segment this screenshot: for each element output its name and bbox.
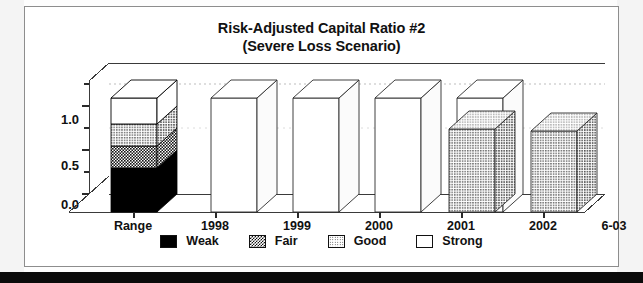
legend-item-good[interactable]: Good: [328, 234, 387, 248]
bar-group-range[interactable]: [111, 80, 177, 212]
bar-side-1999: [339, 80, 359, 212]
legend-swatch-fair-icon: [249, 235, 266, 248]
scanned-page: Risk-Adjusted Capital Ratio #2 (Severe L…: [0, 0, 643, 283]
bar-front-2000[interactable]: [375, 98, 421, 212]
page-bottom-rule: [0, 272, 643, 283]
legend-swatch-good-icon: [328, 235, 345, 248]
chart-frame: Risk-Adjusted Capital Ratio #2 (Severe L…: [24, 6, 619, 267]
legend-item-strong[interactable]: Strong: [416, 234, 482, 248]
legend-swatch-strong-icon: [416, 235, 433, 248]
bar-segment-range-good[interactable]: [111, 124, 157, 146]
bar-front-2002[interactable]: [449, 129, 495, 212]
bar-group-2002[interactable]: [449, 111, 515, 212]
y-axis-ticks: [82, 84, 89, 194]
bar-front-1998[interactable]: [211, 98, 257, 212]
bar-group-2000[interactable]: [375, 80, 441, 212]
bar-segment-range-strong[interactable]: [111, 98, 157, 124]
legend-swatch-weak-icon: [160, 235, 177, 248]
bar-group-6-03[interactable]: [531, 113, 597, 212]
legend-label-strong: Strong: [442, 234, 482, 248]
chart-legend: Weak Fair Good Strong: [25, 229, 618, 253]
bar-segment-range-fair[interactable]: [111, 146, 157, 168]
legend-item-weak[interactable]: Weak: [160, 234, 218, 248]
bar-front-6-03[interactable]: [531, 131, 577, 212]
legend-label-good: Good: [354, 234, 387, 248]
page-margin-left: [0, 0, 24, 272]
legend-item-fair[interactable]: Fair: [249, 234, 298, 248]
bar-front-1999[interactable]: [293, 98, 339, 212]
x-axis-labels: Range 1998 1999 2000 2001 2002 6-03: [25, 205, 618, 225]
legend-label-weak: Weak: [186, 234, 218, 248]
plot-area: 1.0 0.5 0.0: [25, 7, 618, 266]
bar-side-1998: [257, 80, 277, 212]
bar-group-1999[interactable]: [293, 80, 359, 212]
bar-group-1998[interactable]: [211, 80, 277, 212]
legend-label-fair: Fair: [275, 234, 298, 248]
bar-side-2000: [421, 80, 441, 212]
